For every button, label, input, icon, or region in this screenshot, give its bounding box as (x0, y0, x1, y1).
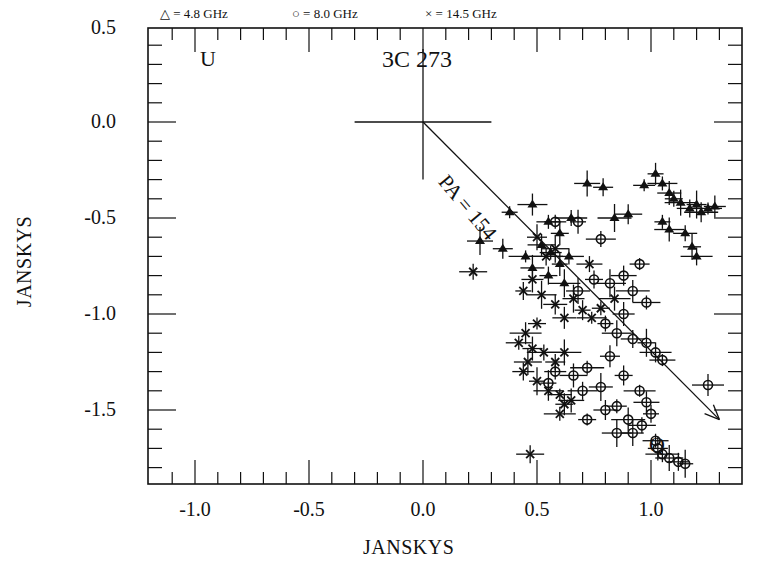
circle-marker-icon: ○ (292, 6, 300, 21)
x-axis-label: JANSKYS (363, 536, 454, 559)
y-tick-label: -1.5 (56, 398, 116, 421)
triangle-marker-icon: △ (160, 6, 170, 21)
plot-frame (148, 28, 742, 484)
y-tick-label: 0.5 (56, 16, 116, 39)
legend-item-14-5ghz: × = 14.5 GHz (425, 6, 497, 22)
x-tick-label: 1.0 (611, 498, 691, 521)
y-axis-label: JANSKYS (13, 202, 36, 322)
legend-item-4-8ghz: △ = 4.8 GHz (160, 6, 228, 22)
x-tick-label: -1.0 (155, 498, 235, 521)
legend-item-8-0ghz: ○ = 8.0 GHz (292, 6, 358, 22)
y-tick-label: -0.5 (56, 206, 116, 229)
u-axis-label: U (200, 46, 216, 72)
x-tick-label: -0.5 (269, 498, 349, 521)
data-points (459, 163, 726, 478)
cross-marker-icon: × (425, 6, 432, 21)
chart-title: 3C 273 (382, 46, 452, 73)
x-tick-label: 0.0 (383, 498, 463, 521)
axis-ticks (148, 28, 742, 484)
scatter-plot (0, 0, 763, 579)
y-tick-label: 0.0 (56, 110, 116, 133)
y-tick-label: -1.0 (56, 302, 116, 325)
x-tick-label: 0.5 (497, 498, 577, 521)
q-axis-label: Q (649, 432, 665, 458)
